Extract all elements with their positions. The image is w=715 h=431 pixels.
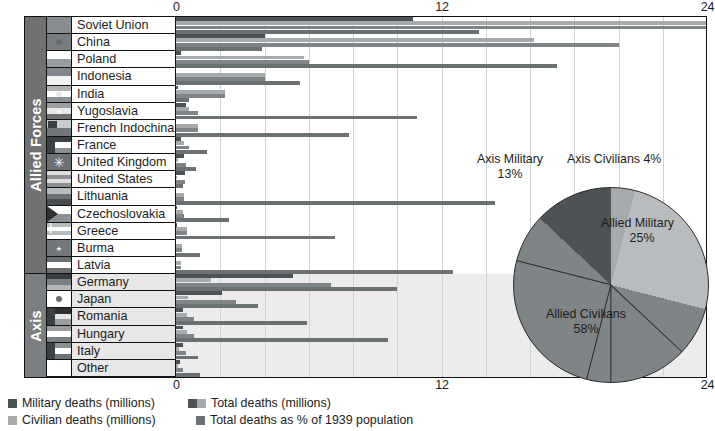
country-label-united-states[interactable]: United States xyxy=(72,171,175,188)
flag-romania-icon xyxy=(47,308,71,325)
flag-united-kingdom-icon: ✳ xyxy=(47,154,71,171)
flag-greece-icon: ╋ xyxy=(47,223,71,240)
legend-swatch-percent-icon xyxy=(196,416,205,425)
flag-soviet-union-icon xyxy=(47,17,71,34)
flag-united-states-icon xyxy=(47,171,71,188)
flag-canton-icon xyxy=(48,121,57,128)
flag-star-icon: ★ xyxy=(56,107,62,114)
country-label-soviet-union[interactable]: Soviet Union xyxy=(72,17,175,34)
country-label-yugoslavia[interactable]: Yugoslavia xyxy=(72,103,175,120)
bar-row-united-states xyxy=(176,171,706,188)
legend-swatch-military-icon xyxy=(8,399,17,408)
flag-vertical-stripe-icon xyxy=(47,308,55,324)
legend-item-percent: Total deaths as % of 1939 population xyxy=(196,413,413,427)
country-label-china[interactable]: China xyxy=(72,34,175,51)
pie-label-axis-civilians: Axis Civilians 4% xyxy=(567,152,707,167)
group-band-axis-label: Axis xyxy=(28,310,44,341)
axis-tick-0: 0 xyxy=(173,378,180,392)
country-label-indonesia[interactable]: Indonesia xyxy=(72,68,175,85)
flag-yugoslavia-icon: ★ xyxy=(47,103,71,120)
country-label-other[interactable]: Other xyxy=(72,360,175,377)
country-label-romania[interactable]: Romania xyxy=(72,308,175,325)
pie-label-allied-military: Allied Military 25% xyxy=(601,216,701,245)
bar-row-yugoslavia xyxy=(176,103,706,120)
bar-row-poland xyxy=(176,51,706,68)
flag-germany-icon xyxy=(47,274,71,291)
bar-row-french-indochina xyxy=(176,120,706,137)
flag-burma-icon: ★ xyxy=(47,240,71,257)
group-band-allied: Allied Forces xyxy=(25,17,47,274)
axis-top: 01224 xyxy=(0,0,712,16)
flag-french-indochina-icon xyxy=(47,120,71,137)
flag-italy-icon xyxy=(47,343,71,360)
legend-item-military: Military deaths (millions) xyxy=(8,396,155,410)
country-label-lithuania[interactable]: Lithuania xyxy=(72,188,175,205)
flag-triangle-icon xyxy=(47,206,58,222)
chart-legend: Military deaths (millions) Civilian deat… xyxy=(8,396,708,430)
country-label-french-indochina[interactable]: French Indochina xyxy=(72,120,175,137)
flag-column: ★✳╋★ xyxy=(47,17,72,377)
country-label-greece[interactable]: Greece xyxy=(72,223,175,240)
legend-swatch-civilian-icon xyxy=(8,416,17,425)
bar-row-china xyxy=(176,34,706,51)
flag-japan-icon xyxy=(47,291,71,308)
flag-france-icon xyxy=(47,137,71,154)
legend-label-military: Military deaths (millions) xyxy=(22,396,155,410)
country-label-burma[interactable]: Burma xyxy=(72,240,175,257)
flag-latvia-icon xyxy=(47,257,71,274)
country-label-united-kingdom[interactable]: United Kingdom xyxy=(72,154,175,171)
legend-item-total: Total deaths (millions) xyxy=(188,396,331,410)
flag-hungary-icon xyxy=(47,326,71,343)
country-label-poland[interactable]: Poland xyxy=(72,51,175,68)
legend-label-total: Total deaths (millions) xyxy=(211,396,331,410)
axis-tick-0: 0 xyxy=(173,0,180,14)
legend-swatch-total-icon xyxy=(188,399,206,408)
bar-row-soviet-union xyxy=(176,17,706,34)
country-name-column: Soviet UnionChinaPolandIndonesiaIndiaYug… xyxy=(72,17,176,377)
country-label-hungary[interactable]: Hungary xyxy=(72,326,175,343)
country-label-italy[interactable]: Italy xyxy=(72,343,175,360)
flag-poland-icon xyxy=(47,51,71,68)
legend-label-civilian: Civilian deaths (millions) xyxy=(22,413,156,427)
country-label-india[interactable]: India xyxy=(72,86,175,103)
flag-star-icon: ★ xyxy=(56,244,62,251)
legend-label-percent: Total deaths as % of 1939 population xyxy=(210,413,413,427)
pie-label-allied-civilians: Allied Civilians 58% xyxy=(523,307,649,336)
bar-percent xyxy=(176,373,200,377)
flag-india-icon xyxy=(47,86,71,103)
flag-vertical-stripe-icon xyxy=(47,343,55,359)
country-label-germany[interactable]: Germany xyxy=(72,274,175,291)
flag-union-jack-icon: ✳ xyxy=(54,156,65,169)
axis-tick-24: 24 xyxy=(701,0,715,14)
group-band-allied-label: Allied Forces xyxy=(28,98,44,192)
legend-item-civilian: Civilian deaths (millions) xyxy=(8,413,156,427)
country-label-czechoslovakia[interactable]: Czechoslovakia xyxy=(72,206,175,223)
flag-cross-icon: ╋ xyxy=(48,224,53,233)
country-label-france[interactable]: France xyxy=(72,137,175,154)
bar-row-india xyxy=(176,86,706,103)
axis-tick-24: 24 xyxy=(701,378,715,392)
axis-tick-12: 12 xyxy=(435,378,449,392)
country-label-latvia[interactable]: Latvia xyxy=(72,257,175,274)
flag-disc-icon xyxy=(56,39,62,45)
flag-lithuania-icon xyxy=(47,188,71,205)
flag-china-icon xyxy=(47,34,71,51)
bar-row-indonesia xyxy=(176,68,706,85)
flag-disc-icon xyxy=(56,91,62,97)
axis-bottom: 01224 xyxy=(0,378,712,394)
flag-vertical-stripe-icon xyxy=(47,137,55,153)
pie-slice-divider xyxy=(517,260,611,285)
pie-label-axis-military: Axis Military 13% xyxy=(455,152,565,181)
axis-tick-12: 12 xyxy=(435,0,449,14)
bar-military xyxy=(176,171,185,175)
country-label-japan[interactable]: Japan xyxy=(72,291,175,308)
flag-disc-icon xyxy=(56,296,62,302)
group-band-axis: Axis xyxy=(25,274,47,377)
flag-indonesia-icon xyxy=(47,68,71,85)
flag-czechoslovakia-icon xyxy=(47,206,71,223)
flag-other-icon xyxy=(47,360,71,377)
